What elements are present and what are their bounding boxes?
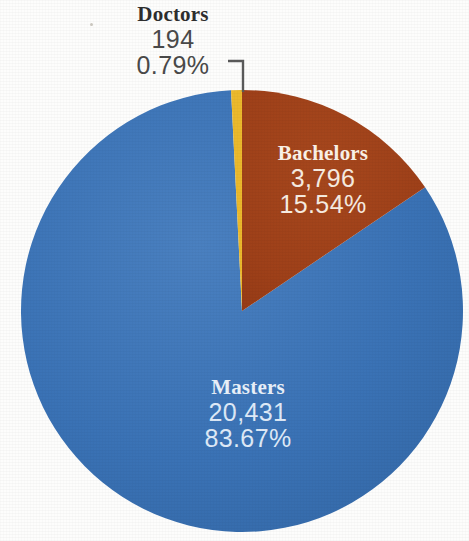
doctors-leader-line [228,61,243,92]
pie-chart-figure: Doctors 194 0.79% Bachelors 3,796 15.54%… [0,0,469,541]
pie-slices-group [21,90,463,532]
pie-chart-svg [0,0,469,541]
